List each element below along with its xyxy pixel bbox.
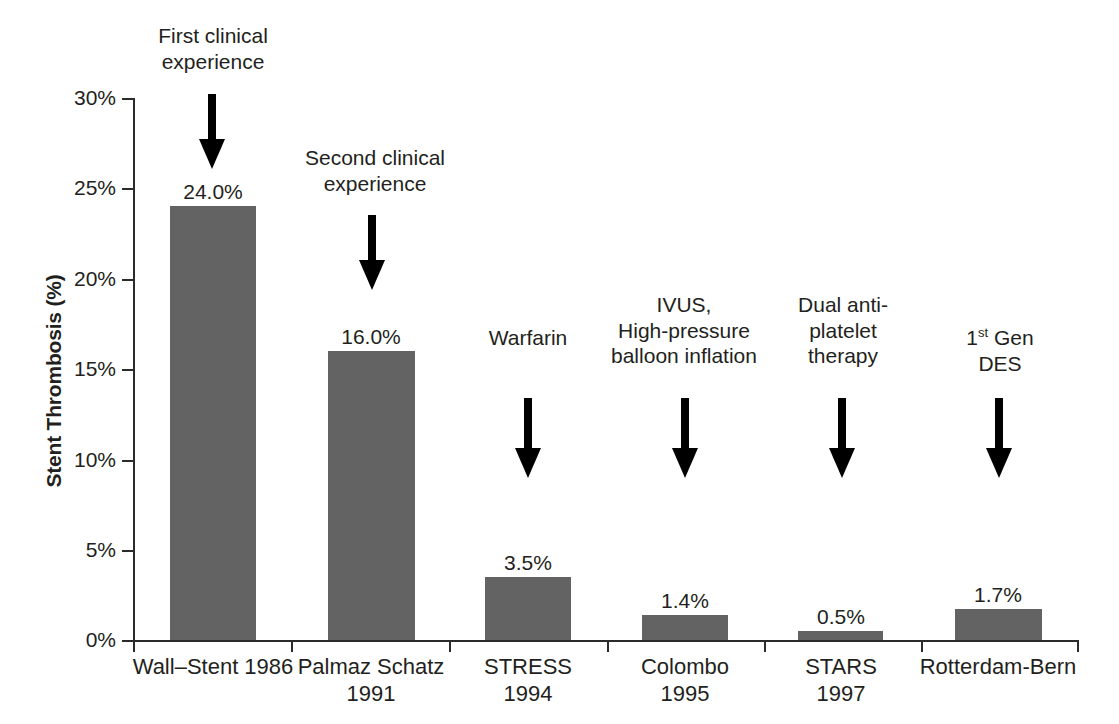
x-tick-mark-4 xyxy=(764,642,766,652)
bar-value-palmaz-schatz-1991: 16.0% xyxy=(311,325,431,349)
annotation-arrow-dual-antiplatelet-therapy xyxy=(827,398,857,480)
x-tick-mark-5 xyxy=(921,642,923,652)
y-tick-mark-10 xyxy=(122,460,133,462)
bar-value-stress-1994: 3.5% xyxy=(468,551,588,575)
x-label-colombo-1995: Colombo 1995 xyxy=(595,653,775,708)
annotation-arrow-second-clinical-experience xyxy=(357,215,387,291)
bar-palmaz-schatz-1991 xyxy=(328,351,415,640)
annotation-first-gen-des: 1st Gen DES xyxy=(910,325,1090,376)
bar-colombo-1995 xyxy=(642,615,728,640)
y-tick-label-0: 0% xyxy=(40,628,116,652)
annotation-first-clinical-experience: First clinical experience xyxy=(123,23,303,74)
x-label-wall-stent-1986: Wall–Stent 1986 xyxy=(123,653,303,680)
bar-value-wall-stent-1986: 24.0% xyxy=(153,180,273,204)
y-tick-label-30: 30% xyxy=(40,86,116,110)
y-tick-mark-30 xyxy=(122,98,133,100)
annotation-first-gen-des-superscript: st xyxy=(978,325,988,340)
bar-rotterdam-bern xyxy=(955,609,1042,640)
x-tick-mark-1 xyxy=(291,642,293,652)
x-label-stress-1994: STRESS 1994 xyxy=(438,653,618,708)
y-tick-mark-20 xyxy=(122,279,133,281)
y-tick-mark-15 xyxy=(122,369,133,371)
bar-value-colombo-1995: 1.4% xyxy=(625,589,745,613)
bar-stress-1994 xyxy=(485,577,571,640)
x-label-rotterdam-bern: Rotterdam-Bern xyxy=(908,653,1088,680)
x-tick-mark-3 xyxy=(607,642,609,652)
x-label-stars-1997: STARS 1997 xyxy=(751,653,931,708)
annotation-first-gen-des-prefix: 1 xyxy=(966,326,978,349)
y-tick-label-15: 15% xyxy=(40,357,116,381)
stent-thrombosis-bar-chart: Stent Thrombosis (%) 30% 25% 20% 15% 10%… xyxy=(0,0,1119,724)
y-tick-mark-5 xyxy=(122,550,133,552)
y-tick-mark-25 xyxy=(122,188,133,190)
bar-value-stars-1997: 0.5% xyxy=(781,605,901,629)
x-tick-mark-6 xyxy=(1077,642,1079,652)
x-tick-mark-2 xyxy=(449,642,451,652)
x-tick-mark-0 xyxy=(133,642,135,652)
y-tick-mark-0 xyxy=(122,640,133,642)
bar-value-rotterdam-bern: 1.7% xyxy=(938,583,1058,607)
annotation-arrow-first-gen-des xyxy=(984,398,1014,480)
bar-wall-stent-1986 xyxy=(170,206,256,640)
annotation-arrow-ivus-high-pressure-balloon-inflation xyxy=(670,398,700,480)
y-tick-label-20: 20% xyxy=(40,267,116,291)
y-tick-label-5: 5% xyxy=(40,538,116,562)
y-tick-label-10: 10% xyxy=(40,448,116,472)
annotation-second-clinical-experience: Second clinical experience xyxy=(280,145,470,196)
x-axis-line xyxy=(133,640,1079,642)
annotation-arrow-warfarin xyxy=(513,398,543,480)
bar-stars-1997 xyxy=(798,631,883,640)
x-label-palmaz-schatz-1991: Palmaz Schatz 1991 xyxy=(281,653,461,708)
annotation-dual-antiplatelet-therapy: Dual anti- platelet therapy xyxy=(755,292,931,369)
y-axis-line xyxy=(133,98,135,641)
annotation-arrow-first-clinical-experience xyxy=(197,94,227,170)
y-tick-label-25: 25% xyxy=(40,176,116,200)
